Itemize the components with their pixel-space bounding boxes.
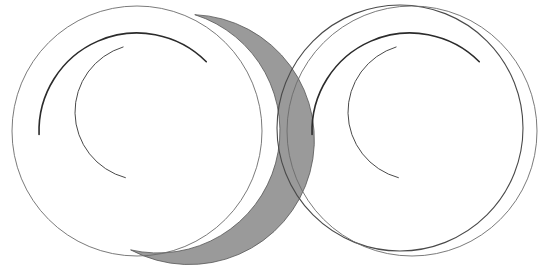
figure-canvas — [0, 0, 551, 271]
figure-svg — [0, 0, 551, 271]
